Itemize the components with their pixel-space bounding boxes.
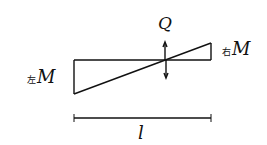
shear-label: Q — [158, 13, 172, 33]
left-moment-label: 左M — [27, 66, 55, 87]
right-moment-label: 右M — [222, 38, 250, 59]
moment-line — [74, 43, 211, 94]
span-label: l — [138, 122, 144, 143]
moment-diagram: Q 左M 右M l — [0, 0, 267, 145]
